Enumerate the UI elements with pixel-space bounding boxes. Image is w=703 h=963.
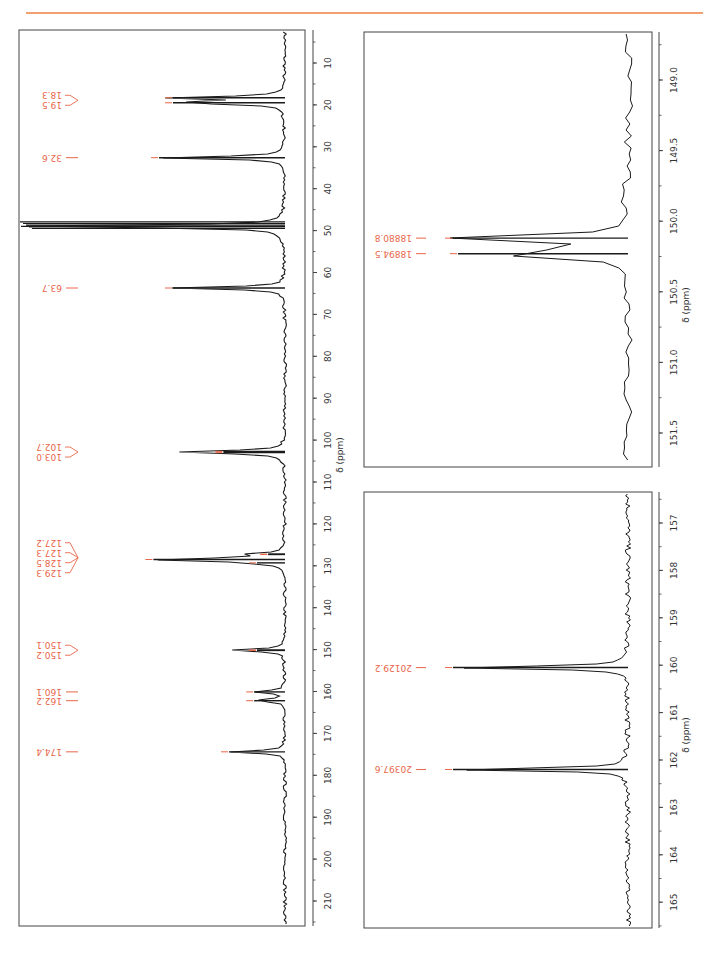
expansion-160-peak-labels: 20129.220397.6	[375, 663, 426, 775]
axis-title: δ (ppm)	[681, 287, 691, 323]
tick-label: 200	[323, 850, 333, 867]
peak-label: 18.3	[42, 90, 62, 100]
nmr-figure: 1020304050607080901001101201301401501601…	[0, 0, 703, 963]
peak-label: 18894.5	[375, 249, 412, 259]
tick-label: 30	[323, 141, 333, 153]
peak-label: 160.1	[36, 687, 62, 697]
peak-label: 20397.6	[375, 764, 412, 774]
tick-label: 90	[323, 392, 333, 404]
tick-label: 20	[323, 99, 333, 111]
peak-label: 32.6	[42, 153, 62, 163]
peak-label: 103.0	[36, 452, 62, 462]
tick-label: 10	[323, 57, 333, 69]
tick-label: 165	[669, 894, 679, 911]
peak-label: 150.1	[36, 640, 62, 650]
tick-label: 157	[669, 514, 679, 531]
tick-label: 40	[323, 183, 333, 195]
expansion-160-ppm-axis: 157158159160161162163164165δ (ppm)	[659, 492, 691, 928]
tick-label: 50	[323, 225, 333, 237]
tick-label: 150.5	[669, 279, 679, 305]
expansion-150-ppm-axis: 149.0149.5150.0150.5151.0151.5δ (ppm)	[659, 32, 691, 467]
axis-title: δ (ppm)	[681, 717, 691, 753]
peak-label: 127.3	[36, 548, 62, 558]
peak-label: 19.5	[42, 100, 62, 110]
axis-title: δ (ppm)	[335, 437, 345, 473]
expansion-160-trace	[445, 494, 631, 926]
tick-label: 80	[323, 350, 333, 362]
tick-label: 190	[323, 808, 333, 825]
tick-label: 150.0	[669, 208, 679, 234]
peak-label: 129.3	[36, 568, 62, 578]
main-peak-labels: 18.319.532.663.7102.7103.0127.2127.3128.…	[36, 90, 78, 757]
tick-label: 130	[323, 557, 333, 574]
tick-label: 158	[669, 562, 679, 579]
peak-label: 20129.2	[375, 663, 412, 673]
tick-label: 159	[669, 609, 679, 626]
tick-label: 149.5	[669, 138, 679, 164]
tick-label: 161	[669, 704, 679, 721]
tick-label: 160	[323, 683, 333, 700]
expansion-150-trace	[445, 34, 633, 460]
peak-label: 128.5	[36, 558, 62, 568]
peak-label: 63.7	[42, 283, 62, 293]
expansion-160-frame	[364, 492, 652, 928]
tick-label: 151.5	[669, 420, 679, 446]
peak-label: 162.2	[36, 696, 62, 706]
tick-label: 160	[669, 656, 679, 673]
tick-label: 162	[669, 751, 679, 768]
tick-label: 100	[323, 431, 333, 448]
main-spectrum-trace	[20, 32, 287, 924]
tick-label: 151.0	[669, 349, 679, 375]
tick-label: 60	[323, 267, 333, 279]
peak-label: 174.4	[36, 747, 62, 757]
peak-label: 102.7	[36, 442, 62, 452]
tick-label: 150	[323, 641, 333, 658]
tick-label: 120	[323, 515, 333, 532]
tick-label: 170	[323, 725, 333, 742]
expansion-150-peak-labels: 18880.818894.5	[375, 233, 426, 259]
peak-label: 127.2	[36, 538, 62, 548]
tick-label: 164	[669, 846, 679, 863]
tick-label: 163	[669, 799, 679, 816]
peak-label: 150.2	[36, 650, 62, 660]
tick-label: 149.0	[669, 67, 679, 93]
main-spectrum-frame	[19, 30, 305, 926]
peak-label: 18880.8	[375, 233, 412, 243]
tick-label: 210	[323, 892, 333, 909]
tick-label: 140	[323, 599, 333, 616]
tick-label: 70	[323, 308, 333, 320]
main-ppm-axis: 1020304050607080901001101201301401501601…	[313, 30, 345, 926]
tick-label: 180	[323, 766, 333, 783]
tick-label: 110	[323, 473, 333, 490]
